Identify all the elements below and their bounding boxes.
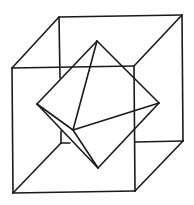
diagram-canvas <box>0 0 194 205</box>
cube-octahedron-diagram <box>0 0 194 205</box>
